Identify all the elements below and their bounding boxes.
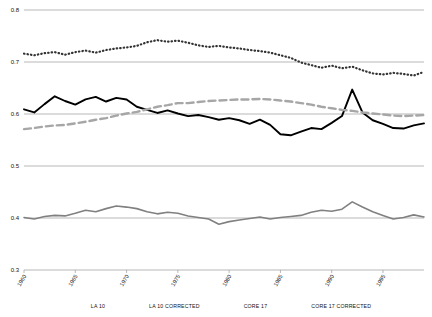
y-axis-tick-label: 0.7 [11, 59, 20, 65]
x-axis-tick-label: 1985 [272, 274, 283, 288]
x-axis-tick-label: 1980 [221, 274, 232, 288]
legend-item-la10: LA 10 [61, 303, 105, 309]
y-axis-tick-label: 0.6 [11, 111, 20, 117]
legend-item-core17-corrected: CORE 17 CORRECTED [281, 303, 371, 309]
legend-label-la10: LA 10 [91, 303, 105, 309]
chart-container: 0.30.40.50.60.70.81960196519701975198019… [0, 0, 432, 317]
legend-label-core17: CORE 17 [244, 303, 268, 309]
y-axis-tick-label: 0.4 [11, 215, 20, 221]
x-axis-tick-label: 1975 [170, 274, 181, 288]
legend-item-la10-corrected: LA 10 CORRECTED [119, 303, 200, 309]
y-axis-tick-label: 0.8 [11, 7, 20, 13]
legend-label-la10-corrected: LA 10 CORRECTED [149, 303, 200, 309]
legend-item-core17: CORE 17 [214, 303, 268, 309]
x-axis-tick-label: 1990 [324, 274, 335, 288]
x-axis-tick-label: 1965 [67, 274, 78, 288]
line-chart-plot: 0.30.40.50.60.70.81960196519701975198019… [0, 0, 432, 317]
x-axis-tick-label: 1995 [375, 274, 386, 288]
x-axis-tick-label: 1960 [16, 274, 27, 288]
legend-label-core17-corrected: CORE 17 CORRECTED [311, 303, 371, 309]
series-line-3 [24, 40, 424, 75]
x-axis-tick-label: 1970 [119, 274, 130, 288]
y-axis-tick-label: 0.5 [11, 163, 20, 169]
y-axis-tick-label: 0.3 [11, 267, 20, 273]
series-line-0 [24, 202, 424, 224]
chart-legend: LA 10 LA 10 CORRECTED CORE 17 CORE 17 CO… [0, 296, 432, 316]
